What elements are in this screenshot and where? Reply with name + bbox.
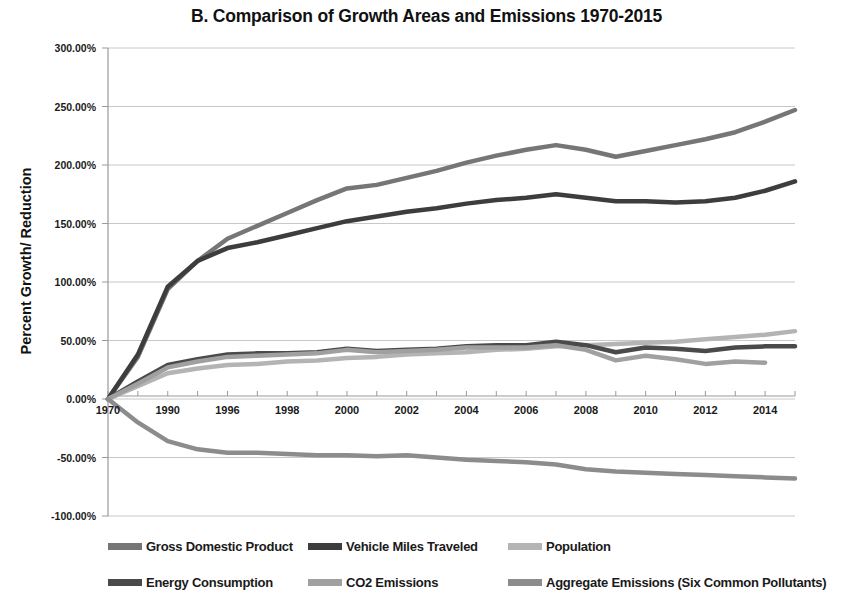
legend-label: Energy Consumption <box>146 575 273 590</box>
legend-label: CO2 Emissions <box>346 575 438 590</box>
x-tick-label: 2012 <box>693 404 717 416</box>
y-tick-label: 0.00% <box>66 393 96 405</box>
y-tick-label: 250.00% <box>55 101 97 113</box>
gridlines <box>108 48 795 516</box>
y-tick-label: 300.00% <box>55 42 97 54</box>
x-axis-ticks <box>108 391 795 396</box>
y-axis-labels: 300.00%250.00%200.00%150.00%100.00%50.00… <box>51 42 97 522</box>
legend-row: Energy ConsumptionCO2 EmissionsAggregate… <box>108 564 848 600</box>
x-tick-label: 2014 <box>753 404 778 416</box>
y-tick-label: 150.00% <box>55 218 97 230</box>
legend-label: Gross Domestic Product <box>146 539 293 554</box>
legend-item[interactable]: Energy Consumption <box>108 575 308 590</box>
legend-label: Population <box>546 539 611 554</box>
x-tick-label: 2002 <box>394 404 418 416</box>
chart-container: B. Comparison of Growth Areas and Emissi… <box>0 0 853 606</box>
legend-swatch-icon <box>508 543 542 550</box>
legend-item[interactable]: Aggregate Emissions (Six Common Pollutan… <box>508 575 848 590</box>
chart-legend: Gross Domestic ProductVehicle Miles Trav… <box>108 528 848 600</box>
legend-item[interactable]: Population <box>508 539 848 554</box>
x-tick-label: 1998 <box>275 404 299 416</box>
legend-label: Aggregate Emissions (Six Common Pollutan… <box>546 575 826 590</box>
legend-swatch-icon <box>508 579 542 586</box>
legend-swatch-icon <box>108 543 142 550</box>
y-tick-label: -100.00% <box>51 510 97 522</box>
y-tick-label: 200.00% <box>55 159 97 171</box>
y-tick-label: -50.00% <box>57 452 97 464</box>
legend-row: Gross Domestic ProductVehicle Miles Trav… <box>108 528 848 564</box>
legend-swatch-icon <box>108 579 142 586</box>
x-tick-label: 1990 <box>155 404 179 416</box>
legend-label: Vehicle Miles Traveled <box>346 539 478 554</box>
x-tick-label: 2004 <box>454 404 479 416</box>
x-tick-label: 1970 <box>96 404 120 416</box>
legend-swatch-icon <box>308 579 342 586</box>
x-tick-label: 2010 <box>633 404 657 416</box>
plot-area: 1970199019961998200020022004200620082010… <box>0 0 853 606</box>
x-tick-label: 1996 <box>215 404 239 416</box>
y-tick-label: 50.00% <box>60 335 96 347</box>
y-tick-label: 100.00% <box>55 276 97 288</box>
series-line-2 <box>108 331 795 399</box>
legend-item[interactable]: Vehicle Miles Traveled <box>308 539 508 554</box>
legend-swatch-icon <box>308 543 342 550</box>
legend-item[interactable]: Gross Domestic Product <box>108 539 308 554</box>
x-tick-label: 2000 <box>335 404 359 416</box>
y-axis-ticks <box>102 48 108 516</box>
x-tick-label: 2006 <box>514 404 538 416</box>
legend-item[interactable]: CO2 Emissions <box>308 575 508 590</box>
x-tick-label: 2008 <box>574 404 598 416</box>
series-line-5 <box>108 399 795 479</box>
x-axis-labels: 1970199019961998200020022004200620082010… <box>96 404 778 416</box>
